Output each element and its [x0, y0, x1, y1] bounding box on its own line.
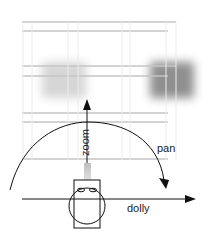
- dolly-label: dolly: [127, 203, 150, 214]
- camera-icon: [69, 180, 105, 228]
- pan-arrowhead-icon: [159, 178, 169, 189]
- pan-label: pan: [157, 143, 175, 154]
- dolly-arrowhead-icon: [185, 195, 196, 203]
- zoom-label: zoom: [80, 129, 91, 156]
- blur-blob-left: [42, 62, 86, 98]
- blur-blob-right: [150, 62, 194, 98]
- camera-motion-diagram: zoom pan dolly: [0, 0, 209, 242]
- lens-beam: [84, 163, 91, 180]
- camera-body: [74, 180, 100, 228]
- blurred-scene-background: [22, 22, 194, 160]
- diagram-canvas: [0, 0, 209, 242]
- dolly-arrow: [22, 195, 196, 203]
- zoom-arrowhead-icon: [83, 99, 91, 110]
